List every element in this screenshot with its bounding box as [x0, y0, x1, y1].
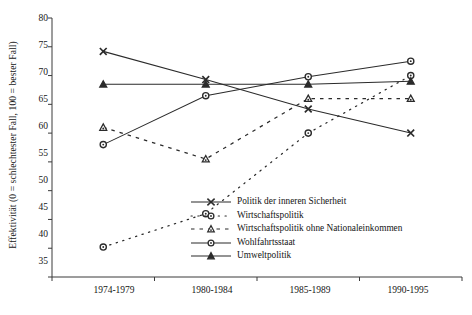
data-point — [305, 106, 312, 113]
data-point — [100, 142, 106, 148]
data-point — [305, 95, 312, 101]
legend-label-4: Umweltpolitik — [233, 249, 291, 263]
series-2 — [100, 95, 415, 162]
data-point — [203, 93, 209, 99]
data-point — [100, 244, 106, 250]
open-circle-marker-icon — [189, 209, 233, 223]
legend-label-1: Wirtschaftspolitik — [233, 209, 304, 223]
series-3 — [100, 58, 414, 148]
open-circle-marker-icon — [189, 236, 233, 250]
filled-triangle-marker-icon — [189, 249, 233, 263]
x-marker-icon — [189, 195, 233, 209]
legend-label-3: Wohlfahrtsstaat — [233, 236, 295, 250]
legend-label-2: Wirtschaftspolitik ohne Nationaleinkomme… — [233, 222, 402, 236]
data-point — [407, 95, 414, 101]
data-point — [407, 78, 414, 84]
data-point — [305, 81, 312, 87]
data-point — [305, 130, 311, 136]
data-point — [407, 130, 414, 137]
legend-item-4[interactable]: Umweltpolitik — [189, 249, 439, 263]
data-point — [100, 81, 107, 87]
x-axis-ticks — [52, 277, 462, 281]
plot-area — [0, 0, 472, 315]
chart-container: Effektivität (0 = schlechtester Fall, 10… — [0, 0, 472, 315]
data-point — [202, 156, 209, 162]
data-point — [305, 74, 311, 80]
data-point — [100, 124, 107, 130]
legend-item-2[interactable]: Wirtschaftspolitik ohne Nationaleinkomme… — [189, 222, 439, 236]
data-point — [408, 58, 414, 64]
y-axis-ticks — [48, 18, 52, 277]
legend-label-0: Politik der inneren Sicherheit — [233, 195, 346, 209]
data-point — [100, 48, 107, 55]
legend: Politik der inneren Sicherheit Wirtschaf… — [189, 195, 439, 263]
legend-item-1[interactable]: Wirtschaftspolitik — [189, 209, 439, 223]
legend-item-0[interactable]: Politik der inneren Sicherheit — [189, 195, 439, 209]
legend-item-3[interactable]: Wohlfahrtsstaat — [189, 236, 439, 250]
open-triangle-marker-icon — [189, 222, 233, 236]
